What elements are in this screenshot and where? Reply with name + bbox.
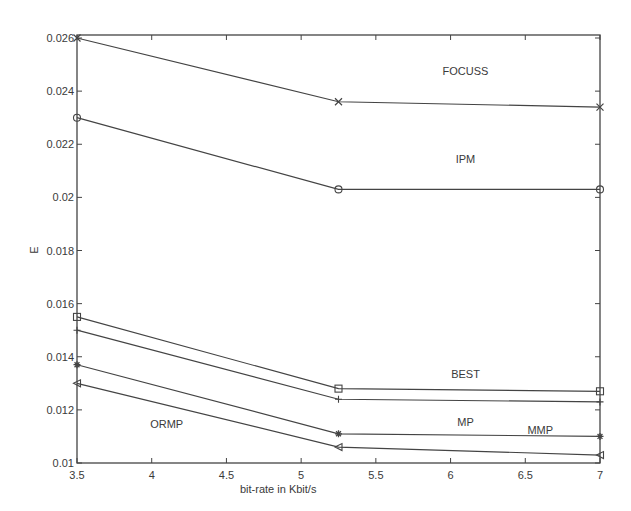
asterisk-marker-icon [597, 433, 604, 440]
x-axis-label: bit-rate in Kbit/s [240, 483, 317, 495]
plus-marker-icon [335, 396, 342, 403]
series-label-best: BEST [451, 368, 480, 380]
y-tick-label: 0.02 [53, 191, 74, 203]
y-tick-label: 0.01 [53, 457, 74, 469]
x-tick-label: 5.5 [368, 469, 383, 481]
series-label-mp: MP [457, 416, 474, 428]
series-mmp [74, 327, 604, 406]
series-line [77, 38, 600, 107]
y-axis-label: E [28, 246, 40, 253]
series-label-ipm: IPM [456, 153, 476, 165]
series-line [77, 330, 600, 402]
plus-marker-icon [597, 398, 604, 405]
x-tick-label: 7 [597, 469, 603, 481]
line-chart: 0.010.0120.0140.0160.0180.020.0220.0240.… [0, 0, 631, 511]
series-label-focuss: FOCUSS [443, 65, 489, 77]
y-tick-label: 0.012 [46, 404, 74, 416]
x-tick-label: 4 [149, 469, 155, 481]
series-label-ormp: ORMP [150, 418, 183, 430]
y-tick-label: 0.022 [46, 138, 74, 150]
y-tick-label: 0.026 [46, 32, 74, 44]
x-tick-label: 5 [298, 469, 304, 481]
annotation-layer: FOCUSSIPMBESTMPMMPORMP [150, 65, 553, 436]
series-focuss [74, 35, 604, 111]
x-axis: 3.544.555.566.57 [69, 35, 603, 481]
series-line [77, 118, 600, 190]
asterisk-marker-icon [74, 361, 81, 368]
series-ipm [74, 114, 604, 193]
asterisk-marker-icon [335, 430, 342, 437]
x-tick-label: 3.5 [69, 469, 84, 481]
series-label-mmp: MMP [527, 424, 553, 436]
series-layer [74, 35, 604, 459]
y-tick-label: 0.016 [46, 298, 74, 310]
y-tick-label: 0.014 [46, 351, 74, 363]
x-tick-label: 6 [448, 469, 454, 481]
series-line [77, 317, 600, 391]
y-tick-label: 0.024 [46, 85, 74, 97]
x-tick-label: 6.5 [518, 469, 533, 481]
series-best [74, 313, 604, 394]
plus-marker-icon [74, 327, 81, 334]
y-tick-label: 0.018 [46, 245, 74, 257]
x-tick-label: 4.5 [219, 469, 234, 481]
